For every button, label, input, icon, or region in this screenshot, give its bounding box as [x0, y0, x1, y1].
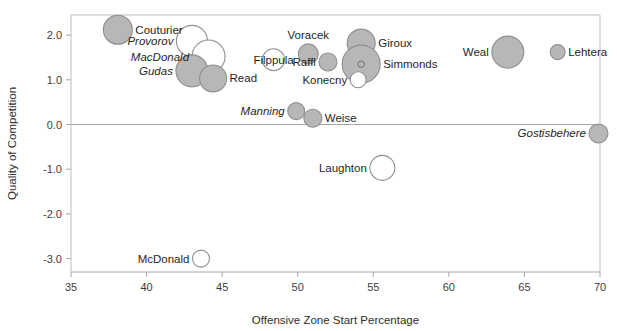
y-axis-tick-label: -3.0	[43, 253, 62, 265]
scatter-chart: 2.01.00.0-1.0-2.0-3.03540455055606570Off…	[0, 0, 617, 331]
chart-plot-area: 2.01.00.0-1.0-2.0-3.03540455055606570Off…	[0, 0, 617, 331]
data-point-gostisbehere[interactable]	[589, 124, 608, 143]
data-point-inner-marker-simmonds	[358, 61, 364, 67]
data-point-label-provorov: Provorov	[127, 35, 174, 47]
data-point-label-voracek: Voracek	[288, 29, 330, 41]
x-axis-tick-label: 60	[443, 281, 455, 293]
data-point-weal[interactable]	[492, 36, 524, 68]
y-axis-tick-label: 1.0	[47, 74, 62, 86]
data-point-lehtera[interactable]	[550, 45, 565, 60]
y-axis-tick-label: -2.0	[43, 208, 62, 220]
data-point-label-weise: Weise	[325, 112, 357, 124]
data-point-label-lehtera: Lehtera	[568, 46, 608, 58]
data-point-label-gostisbehere: Gostisbehere	[518, 127, 586, 139]
data-point-label-macdonald: MacDonald	[131, 51, 190, 63]
x-axis-tick-label: 65	[518, 281, 530, 293]
data-point-label-manning: Manning	[241, 105, 286, 117]
x-axis-tick-label: 50	[292, 281, 304, 293]
data-point-manning[interactable]	[288, 103, 305, 120]
x-axis-title: Offensive Zone Start Percentage	[252, 314, 419, 326]
data-point-mcdonald[interactable]	[192, 250, 209, 267]
data-point-raffl[interactable]	[319, 53, 337, 71]
x-axis-tick-label: 40	[140, 281, 152, 293]
y-axis-tick-label: -1.0	[43, 163, 62, 175]
data-point-label-read: Read	[230, 72, 258, 84]
data-point-laughton[interactable]	[370, 155, 395, 180]
data-point-label-filppula: Filppula	[253, 54, 294, 66]
x-axis-tick-label: 45	[216, 281, 228, 293]
y-axis-tick-label: 0.0	[47, 119, 62, 131]
y-axis-title: Quality of Competition	[6, 87, 18, 200]
data-point-label-giroux: Giroux	[378, 37, 412, 49]
data-point-label-raffl: Raffl	[292, 56, 315, 68]
data-point-label-weal: Weal	[463, 46, 489, 58]
x-axis-tick-label: 35	[65, 281, 77, 293]
y-axis-tick-label: 2.0	[47, 29, 62, 41]
data-point-label-konecny: Konecny	[302, 74, 347, 86]
data-point-label-mcdonald: McDonald	[138, 253, 190, 265]
data-point-label-gudas: Gudas	[139, 65, 173, 77]
data-point-read[interactable]	[200, 65, 227, 92]
data-point-konecny[interactable]	[350, 72, 366, 88]
x-axis-tick-label: 55	[367, 281, 379, 293]
data-point-weise[interactable]	[304, 109, 322, 127]
data-point-label-simmonds: Simmonds	[383, 58, 438, 70]
data-point-label-laughton: Laughton	[319, 162, 367, 174]
x-axis-tick-label: 70	[594, 281, 606, 293]
